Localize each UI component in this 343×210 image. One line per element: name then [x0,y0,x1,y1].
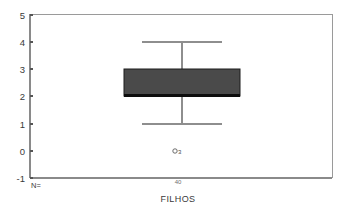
y-tick-label-2: 2 [20,91,25,102]
y-tick-label-0: 0 [20,146,25,157]
y-tick-label-1: 1 [20,119,25,130]
x-axis-title: FILHOS [161,194,196,204]
y-tick-label-5: 5 [20,10,25,21]
outlier-marker [173,149,177,153]
boxplot-figure: 5 4 3 2 1 0 -1 3 N= 40 FILHOS [0,0,343,210]
group-count-label: 40 [175,179,182,185]
outlier-case-label: 3 [178,149,182,155]
y-tick-label-minus1: -1 [17,173,25,184]
y-tick-label-3: 3 [20,64,25,75]
y-tick-label-4: 4 [20,37,25,48]
n-prefix-label: N= [31,181,41,190]
box-rect [124,69,240,96]
boxplot-canvas: 5 4 3 2 1 0 -1 3 N= 40 FILHOS [0,0,343,210]
